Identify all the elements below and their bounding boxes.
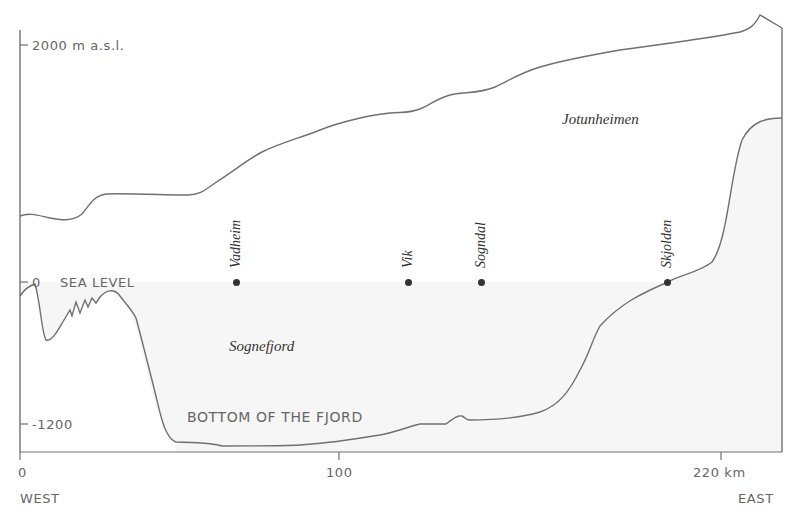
x-label-100: 100 [326,466,353,479]
vik-dot [405,279,412,286]
sognefjord-label: Sognefjord [229,339,294,354]
mountain-crest-line [20,15,782,220]
vadheim-label: Vadheim [229,220,243,268]
skjolden-label: Skjolden [660,220,674,268]
y-label-0: 0 [32,276,41,289]
y-label-2000: 2000 m a.s.l. [32,39,125,52]
vadheim-dot [233,279,240,286]
sogndal-label: Sogndal [474,222,488,268]
sogndal-dot [478,279,485,286]
y-label-minus-1200: -1200 [32,418,73,431]
jotunheimen-label: Jotunheimen [562,112,639,127]
sea-level-label: SEA LEVEL [60,276,135,289]
x-label-0: 0 [18,466,27,479]
east-label: EAST [738,492,774,505]
x-label-220: 220 km [693,466,746,479]
fjord-profile-diagram: 2000 m a.s.l. 0 SEA LEVEL -1200 0 100 22… [0,0,799,527]
vik-label: Vik [401,250,415,268]
fjord-bottom-label: BOTTOM OF THE FJORD [187,410,363,424]
west-label: WEST [20,492,60,505]
skjolden-dot [664,279,671,286]
